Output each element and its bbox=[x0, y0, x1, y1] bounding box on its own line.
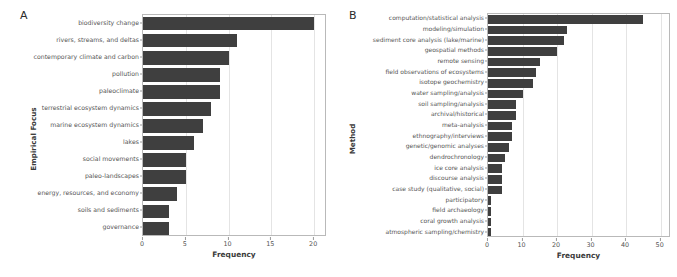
x-tick-mark bbox=[270, 237, 271, 240]
bar bbox=[488, 196, 491, 205]
bar bbox=[488, 143, 509, 152]
gridline bbox=[557, 14, 558, 236]
bar bbox=[488, 26, 567, 35]
category-label: biodiversity change bbox=[78, 19, 139, 25]
category-label: modeling/simulation bbox=[423, 26, 484, 32]
gridline bbox=[626, 14, 627, 236]
x-tick-mark bbox=[487, 238, 488, 241]
category-label: field archaeology bbox=[432, 207, 484, 213]
x-tick-label: 0 bbox=[140, 240, 144, 248]
category-label: computation/statistical analysis bbox=[389, 15, 484, 21]
bar bbox=[488, 58, 540, 67]
bar bbox=[143, 170, 186, 184]
category-label: rivers, streams, and deltas bbox=[56, 37, 139, 43]
x-tick-mark bbox=[591, 238, 592, 241]
bar bbox=[143, 153, 186, 167]
bar bbox=[143, 102, 211, 116]
category-label: dendrochronology bbox=[430, 154, 484, 160]
category-label: coral growth analysis bbox=[420, 218, 484, 224]
category-label: remote sensing bbox=[437, 58, 484, 64]
category-label: meta-analysis bbox=[442, 122, 484, 128]
category-label: ethnography/interviews bbox=[413, 133, 484, 139]
x-tick-mark bbox=[228, 237, 229, 240]
x-tick-label: 20 bbox=[309, 240, 317, 248]
bar bbox=[488, 186, 502, 195]
bar bbox=[143, 205, 169, 219]
category-label: paleoclimate bbox=[99, 88, 139, 94]
bar bbox=[143, 187, 177, 201]
bar bbox=[143, 119, 203, 133]
gridline bbox=[314, 15, 315, 235]
x-tick-mark bbox=[522, 238, 523, 241]
x-tick-label: 10 bbox=[517, 241, 525, 249]
x-tick-mark bbox=[660, 238, 661, 241]
category-label: participatory bbox=[446, 197, 484, 203]
bar bbox=[488, 132, 512, 141]
x-tick-label: 10 bbox=[224, 240, 232, 248]
bar bbox=[488, 15, 643, 24]
bar bbox=[488, 36, 564, 45]
panel-a: A Empirical Focus biodiversity changeriv… bbox=[0, 0, 339, 277]
bar bbox=[143, 51, 229, 65]
x-tick-label: 50 bbox=[656, 241, 664, 249]
category-label: soil sampling/analysis bbox=[418, 101, 484, 107]
x-tick-label: 20 bbox=[552, 241, 560, 249]
bar bbox=[488, 122, 512, 131]
category-label: governance bbox=[103, 224, 139, 230]
category-label: lakes bbox=[123, 139, 139, 145]
category-label: genetic/genomic analyses bbox=[406, 143, 484, 149]
panel-a-category-labels: biodiversity changerivers, streams, and … bbox=[0, 14, 142, 236]
bar bbox=[488, 47, 557, 56]
category-label: energy, resources, and economy bbox=[38, 190, 139, 196]
panel-b-axes bbox=[487, 13, 670, 237]
category-label: water sampling/analysis bbox=[411, 90, 484, 96]
category-label: case study (qualitative, social) bbox=[392, 186, 484, 192]
category-label: ice core analysis bbox=[434, 165, 484, 171]
panel-b: B Method computation/statistical analysi… bbox=[339, 0, 677, 277]
category-label: contemporary climate and carbon bbox=[34, 54, 139, 60]
panel-b-plot: computation/statistical analysismodeling… bbox=[339, 0, 677, 277]
category-label: paleo-landscapes bbox=[85, 173, 139, 179]
panel-a-axes bbox=[142, 14, 326, 236]
x-tick-label: 5 bbox=[183, 240, 187, 248]
bar bbox=[488, 68, 536, 77]
bar bbox=[488, 79, 533, 88]
category-label: soils and sediments bbox=[78, 207, 139, 213]
category-label: pollution bbox=[112, 71, 139, 77]
bar bbox=[488, 111, 516, 120]
category-label: social movements bbox=[83, 156, 139, 162]
panel-a-x-axis-label: Frequency bbox=[142, 250, 326, 259]
bar bbox=[143, 17, 314, 31]
category-label: field observations of ecosystems bbox=[385, 69, 484, 75]
bar bbox=[143, 68, 220, 82]
bar bbox=[488, 218, 491, 227]
category-label: discourse analysis bbox=[429, 175, 484, 181]
panel-b-category-labels: computation/statistical analysismodeling… bbox=[339, 13, 487, 237]
category-label: archival/historical bbox=[431, 111, 484, 117]
bar bbox=[143, 136, 194, 150]
x-tick-mark bbox=[142, 237, 143, 240]
gridline bbox=[271, 15, 272, 235]
x-tick-mark bbox=[313, 237, 314, 240]
x-tick-label: 40 bbox=[621, 241, 629, 249]
gridline bbox=[592, 14, 593, 236]
bar bbox=[488, 90, 523, 99]
bar bbox=[488, 207, 491, 216]
bar bbox=[143, 34, 237, 48]
category-label: sediment core analysis (lake/marine) bbox=[373, 37, 484, 43]
category-label: geospatial methods bbox=[425, 47, 484, 53]
bar bbox=[143, 222, 169, 236]
x-tick-mark bbox=[625, 238, 626, 241]
x-tick-mark bbox=[185, 237, 186, 240]
panel-a-plot: biodiversity changerivers, streams, and … bbox=[0, 0, 339, 277]
category-label: atmospheric sampling/chemistry bbox=[385, 229, 484, 235]
bar bbox=[488, 164, 502, 173]
bar bbox=[488, 228, 491, 237]
figure-two-panel-bar-charts: A Empirical Focus biodiversity changeriv… bbox=[0, 0, 677, 277]
x-tick-mark bbox=[556, 238, 557, 241]
bar bbox=[488, 154, 505, 163]
x-tick-label: 15 bbox=[266, 240, 274, 248]
gridline bbox=[229, 15, 230, 235]
x-tick-label: 30 bbox=[587, 241, 595, 249]
bar bbox=[143, 85, 220, 99]
